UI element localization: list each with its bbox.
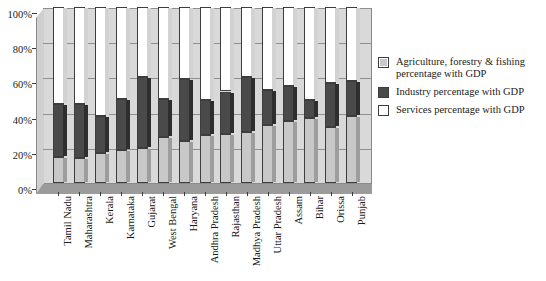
bar-segment[interactable] xyxy=(200,100,211,135)
x-tick-label-text: Karnataka xyxy=(125,196,136,239)
bar-segment[interactable] xyxy=(262,90,273,125)
x-tick-label: Madhya Pradesh xyxy=(251,196,262,266)
bar-stack[interactable] xyxy=(262,7,273,183)
bar-segment[interactable] xyxy=(200,135,211,183)
bar-stack[interactable] xyxy=(283,7,294,183)
bar-segment[interactable] xyxy=(116,99,127,150)
bar-segment[interactable] xyxy=(137,7,148,77)
bar-segment[interactable] xyxy=(325,7,336,83)
bar-segment[interactable] xyxy=(179,79,190,141)
bar-segment-side xyxy=(314,8,318,99)
bar-stack[interactable] xyxy=(74,7,85,183)
bar-segment-side xyxy=(230,93,234,133)
bar-segment[interactable] xyxy=(158,7,169,99)
x-axis-tick xyxy=(205,192,206,196)
bar-segment-side xyxy=(230,8,234,90)
bar-stack[interactable] xyxy=(95,7,106,183)
x-tick-label: West Bengal xyxy=(167,196,178,249)
bar-segment[interactable] xyxy=(304,7,315,100)
bar-segment[interactable] xyxy=(241,132,252,183)
bar-segment[interactable] xyxy=(95,7,106,116)
bar-segment-side xyxy=(126,8,130,98)
bar-segment[interactable] xyxy=(283,86,294,121)
bar-segment[interactable] xyxy=(179,7,190,79)
bar-segment[interactable] xyxy=(200,7,211,100)
bar-stack[interactable] xyxy=(158,7,169,183)
bar-segment[interactable] xyxy=(116,7,127,99)
bar-segment[interactable] xyxy=(325,83,336,127)
bar-segment[interactable] xyxy=(158,137,169,183)
bar-segment[interactable] xyxy=(346,116,357,183)
bar-segment[interactable] xyxy=(116,150,127,183)
bar-segment[interactable] xyxy=(74,158,85,183)
bar-segment[interactable] xyxy=(241,77,252,132)
bar-segment[interactable] xyxy=(74,7,85,104)
bar-segment[interactable] xyxy=(346,81,357,116)
bar-segment[interactable] xyxy=(137,148,148,183)
bar-segment[interactable] xyxy=(283,121,294,183)
bar-stack[interactable] xyxy=(200,7,211,183)
bar-stack[interactable] xyxy=(220,7,231,183)
x-axis-tick xyxy=(100,192,101,196)
bar-segment[interactable] xyxy=(53,104,64,157)
bar-segment[interactable] xyxy=(241,7,252,77)
x-tick-label-text: Uttar Pradesh xyxy=(272,196,283,253)
bar-segment[interactable] xyxy=(158,99,169,138)
bar-segment[interactable] xyxy=(325,127,336,183)
bar-segment-side xyxy=(251,78,255,131)
bar-segment[interactable] xyxy=(53,7,64,104)
y-tick-label: 60% xyxy=(2,80,32,90)
bar-segment[interactable] xyxy=(95,153,106,183)
y-tick-label: 40% xyxy=(2,116,32,126)
bar-segment[interactable] xyxy=(220,92,231,134)
bar-stack[interactable] xyxy=(179,7,190,183)
x-tick-label: Rajasthan xyxy=(230,196,241,237)
bar-segment[interactable] xyxy=(220,134,231,183)
x-tick-label-text: Maharashtra xyxy=(83,196,94,248)
bar-segment-side xyxy=(356,117,360,182)
bar-segment[interactable] xyxy=(220,7,231,91)
x-tick-label: Tamil Nadu xyxy=(62,196,73,246)
x-tick-label: Kerala xyxy=(104,196,115,224)
bar-segment[interactable] xyxy=(346,7,357,81)
bar-segment[interactable] xyxy=(304,100,315,118)
x-tick-label-text: Orissa xyxy=(335,196,346,223)
legend-item[interactable]: Industry percentage with GDP xyxy=(378,86,544,98)
bar-stack[interactable] xyxy=(116,7,127,183)
bar-segment[interactable] xyxy=(262,125,273,183)
x-axis-tick xyxy=(289,192,290,196)
bar-stack[interactable] xyxy=(346,7,357,183)
bar-segment-side xyxy=(189,8,193,78)
bar-segment-side xyxy=(335,8,339,82)
x-axis-tick xyxy=(79,192,80,196)
x-tick-label: Bihar xyxy=(314,196,325,219)
bar-stack[interactable] xyxy=(304,7,315,183)
bar-segment-side xyxy=(168,100,172,137)
bar-segment[interactable] xyxy=(53,157,64,183)
legend-item[interactable]: Agriculture, forestry & fishing percenta… xyxy=(378,56,544,80)
bar-segment-side xyxy=(84,159,88,182)
x-axis-tick xyxy=(121,192,122,196)
bar-segment[interactable] xyxy=(179,141,190,183)
bar-segment[interactable] xyxy=(262,7,273,90)
bar-stack[interactable] xyxy=(241,7,252,183)
x-tick-label: Karnataka xyxy=(125,196,136,239)
bar-segment-side xyxy=(147,78,151,146)
x-tick-label: Uttar Pradesh xyxy=(272,196,283,253)
y-tick-label: 0% xyxy=(2,186,32,196)
bar-stack[interactable] xyxy=(325,7,336,183)
plot-side-wall xyxy=(36,8,44,194)
bar-segment[interactable] xyxy=(95,116,106,153)
bar-segment-side xyxy=(293,122,297,182)
bar-segment-side xyxy=(314,101,318,117)
bar-segment[interactable] xyxy=(137,77,148,147)
bar-stack[interactable] xyxy=(137,7,148,183)
bar-segment[interactable] xyxy=(283,7,294,86)
legend-item[interactable]: Services percentage with GDP xyxy=(378,104,544,116)
bar-segment-side xyxy=(335,84,339,126)
bar-segment[interactable] xyxy=(74,104,85,159)
bar-stack[interactable] xyxy=(53,7,64,183)
bar-segment[interactable] xyxy=(304,118,315,183)
legend-label: Services percentage with GDP xyxy=(396,104,525,116)
bar-segment-side xyxy=(293,87,297,120)
